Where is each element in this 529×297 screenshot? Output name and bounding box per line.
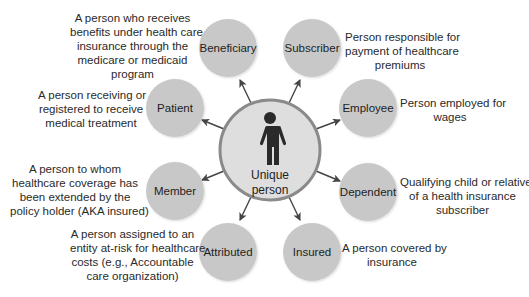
node-label-attributed: Attributed xyxy=(203,246,252,258)
arrow-to-subscriber xyxy=(289,80,300,103)
center-label: Unique person xyxy=(251,168,289,198)
arrow-to-attributed xyxy=(240,197,251,220)
arrow-to-employee xyxy=(316,120,340,129)
desc-beneficiary: A person who receives benefits under hea… xyxy=(70,11,195,81)
arrow-to-patient xyxy=(202,120,224,129)
node-label-insured: Insured xyxy=(293,246,331,258)
desc-insured: A person covered by insurance xyxy=(342,241,442,269)
desc-subscriber: Person responsible for payment of health… xyxy=(345,30,455,72)
arrow-to-insured xyxy=(289,197,300,220)
node-label-patient: Patient xyxy=(157,102,193,114)
node-label-member: Member xyxy=(154,185,196,197)
desc-patient: A person receiving or registered to rece… xyxy=(38,88,144,130)
arrow-to-beneficiary xyxy=(240,80,251,103)
node-label-employee: Employee xyxy=(342,102,393,114)
node-label-subscriber: Subscriber xyxy=(285,42,340,54)
desc-attributed: A person assigned to an entity at-risk f… xyxy=(70,227,195,283)
node-label-dependent: Dependent xyxy=(340,186,396,198)
desc-member: A person to whom healthcare coverage has… xyxy=(10,162,140,218)
desc-dependent: Qualifying child or relative of a health… xyxy=(400,175,525,217)
arrow-to-member xyxy=(202,171,224,180)
node-label-beneficiary: Beneficiary xyxy=(200,42,257,54)
desc-employee: Person employed for wages xyxy=(400,96,500,124)
arrow-to-dependent xyxy=(316,171,340,181)
